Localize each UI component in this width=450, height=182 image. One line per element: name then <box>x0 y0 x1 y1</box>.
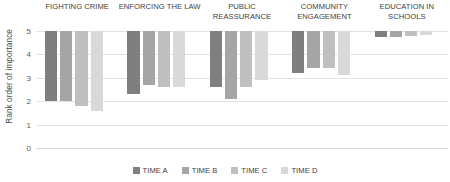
bar <box>127 31 139 94</box>
legend-swatch-icon <box>281 167 288 174</box>
legend-label: TIME B <box>192 166 218 175</box>
bar <box>143 31 155 85</box>
bar-cluster <box>36 0 118 152</box>
legend-label: TIME C <box>241 166 267 175</box>
bar-cluster <box>118 0 200 152</box>
bar <box>323 31 335 68</box>
plot-area: FIGHTING CRIMEENFORCING THE LAWPUBLIC RE… <box>36 0 448 152</box>
category-group: PUBLIC REASSURANCE <box>201 0 283 152</box>
legend: TIME ATIME BTIME CTIME D <box>0 162 450 178</box>
category-group: ENFORCING THE LAW <box>118 0 200 152</box>
category-groups: FIGHTING CRIMEENFORCING THE LAWPUBLIC RE… <box>36 0 448 152</box>
bar <box>338 31 350 75</box>
y-axis-tick-labels: 012345 <box>18 0 34 182</box>
bar <box>292 31 304 73</box>
legend-item[interactable]: TIME A <box>133 166 168 175</box>
bar <box>75 31 87 106</box>
y-axis-title: Rank order of importance <box>0 0 18 152</box>
y-tick-label-3: 3 <box>27 73 31 82</box>
bar <box>60 31 72 101</box>
legend-label: TIME D <box>291 166 317 175</box>
bar <box>307 31 319 68</box>
y-tick-label-5: 5 <box>27 27 31 36</box>
legend-item[interactable]: TIME B <box>182 166 218 175</box>
category-group: COMMUNITY ENGAGEMENT <box>283 0 365 152</box>
legend-item[interactable]: TIME D <box>281 166 317 175</box>
bar <box>225 31 237 99</box>
bar <box>173 31 185 87</box>
legend-swatch-icon <box>182 167 189 174</box>
bar <box>210 31 222 87</box>
bar <box>375 31 387 37</box>
legend-label: TIME A <box>143 166 168 175</box>
legend-swatch-icon <box>133 167 140 174</box>
bar <box>420 31 432 35</box>
bar <box>255 31 267 80</box>
bar <box>390 31 402 37</box>
y-axis-title-text: Rank order of importance <box>5 29 14 124</box>
y-tick-label-1: 1 <box>27 120 31 129</box>
category-group: EDUCATION IN SCHOOLS <box>366 0 448 152</box>
bar-chart: Rank order of importance 012345 FIGHTING… <box>0 0 450 182</box>
bar <box>158 31 170 87</box>
legend-swatch-icon <box>231 167 238 174</box>
legend-item[interactable]: TIME C <box>231 166 267 175</box>
bar-cluster <box>283 0 365 152</box>
y-tick-label-4: 4 <box>27 50 31 59</box>
bar <box>240 31 252 87</box>
y-tick-label-0: 0 <box>27 144 31 153</box>
category-group: FIGHTING CRIME <box>36 0 118 152</box>
bar-cluster <box>366 0 448 152</box>
bar <box>91 31 103 111</box>
bar <box>405 31 417 36</box>
bar-cluster <box>201 0 283 152</box>
y-tick-label-2: 2 <box>27 97 31 106</box>
bar <box>45 31 57 101</box>
